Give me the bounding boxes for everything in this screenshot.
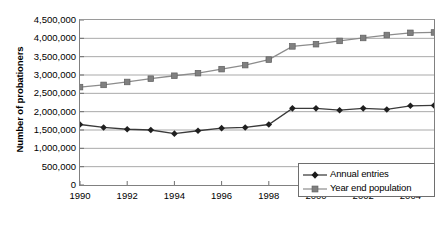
data-point-marker xyxy=(336,107,343,114)
y-tick-label: 2,500,000 xyxy=(2,87,76,98)
x-tick-label: 1996 xyxy=(198,190,246,201)
data-point-marker xyxy=(384,32,390,38)
data-point-marker xyxy=(407,103,414,110)
y-tick-label: 4,500,000 xyxy=(2,14,76,25)
chart-legend: Annual entries Year end population xyxy=(298,163,435,197)
legend-item-year-end-population[interactable]: Year end population xyxy=(302,180,431,194)
data-point-marker xyxy=(290,44,296,50)
data-point-marker xyxy=(148,76,154,82)
x-tick-label: 1990 xyxy=(56,190,104,201)
y-tick-label: 1,500,000 xyxy=(2,124,76,135)
data-point-marker xyxy=(408,30,414,36)
data-point-marker xyxy=(171,130,178,137)
data-point-marker xyxy=(80,84,83,90)
x-tick-label: 1994 xyxy=(150,190,198,201)
data-point-marker xyxy=(313,41,319,47)
y-tick-label: 2,000,000 xyxy=(2,106,76,117)
data-point-marker xyxy=(195,127,202,134)
plot-area xyxy=(79,19,435,186)
data-point-marker xyxy=(172,73,178,79)
data-point-marker xyxy=(360,105,367,112)
legend-item-annual-entries[interactable]: Annual entries xyxy=(302,166,431,180)
data-point-marker xyxy=(195,70,201,76)
data-point-marker xyxy=(101,82,107,88)
data-point-marker xyxy=(360,35,366,41)
y-tick-label: 4,000,000 xyxy=(2,32,76,43)
y-tick-label: 1,000,000 xyxy=(2,142,76,153)
data-point-marker xyxy=(266,57,272,63)
y-tick-label: 3,500,000 xyxy=(2,51,76,62)
legend-marker-square-icon xyxy=(302,181,328,193)
data-point-marker xyxy=(80,121,83,128)
data-point-marker xyxy=(337,38,343,44)
x-tick-label: 1998 xyxy=(245,190,293,201)
y-tick-label: 500,000 xyxy=(2,161,76,172)
data-point-marker xyxy=(242,62,248,68)
legend-label-annual-entries: Annual entries xyxy=(328,168,389,179)
legend-label-year-end-population: Year end population xyxy=(328,182,411,193)
y-tick-label: 0 xyxy=(2,179,76,190)
data-point-marker xyxy=(124,126,131,133)
data-point-marker xyxy=(313,105,320,112)
data-point-marker xyxy=(124,79,130,85)
plot-svg xyxy=(80,20,434,185)
legend-marker-diamond-icon xyxy=(302,167,328,179)
x-tick-label: 1992 xyxy=(103,190,151,201)
data-point-marker xyxy=(219,66,225,72)
data-point-marker xyxy=(431,102,434,109)
series-line-0 xyxy=(80,105,434,133)
series-line-1 xyxy=(80,32,434,87)
data-point-marker xyxy=(148,127,155,134)
y-tick-label: 3,000,000 xyxy=(2,69,76,80)
line-chart: Number of probationers 0500,0001,000,000… xyxy=(0,0,437,229)
data-point-marker xyxy=(431,30,434,36)
